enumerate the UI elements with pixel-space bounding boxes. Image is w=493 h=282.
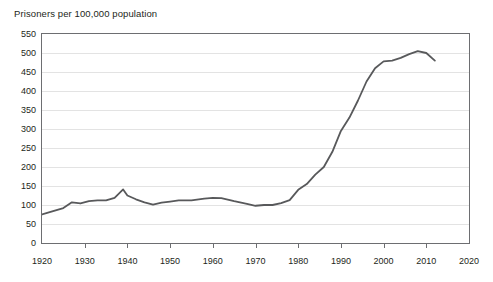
x-tick-mark-1990 <box>341 244 342 248</box>
x-tick-mark-1970 <box>256 244 257 248</box>
x-tick-mark-1930 <box>85 244 86 248</box>
x-tick-mark-1960 <box>213 244 214 248</box>
x-tick-mark-1950 <box>170 244 171 248</box>
x-tick-mark-1980 <box>298 244 299 248</box>
x-tick-mark-2010 <box>426 244 427 248</box>
x-tick-mark-2000 <box>384 244 385 248</box>
chart-container: Prisoners per 100,000 population 0501001… <box>0 0 493 282</box>
x-tick-mark-1940 <box>127 244 128 248</box>
x-axis-ticks <box>0 0 493 282</box>
